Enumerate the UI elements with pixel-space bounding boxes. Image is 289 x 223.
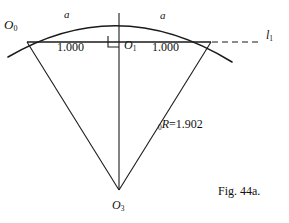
figure-caption: Fig. 44a. [218, 185, 260, 197]
radius-line-right [119, 42, 211, 190]
dimension-label-right: 1.000 [152, 41, 179, 53]
figure-container: O0 a a 1.000 1.000 O1 l1 0R=1.902 O3 Fig… [0, 0, 289, 223]
vertex-label-o3: O3 [112, 199, 124, 213]
dimension-label-left: 1.000 [57, 41, 84, 53]
arc-label-a-left: a [64, 9, 70, 20]
line-label-l1: l1 [266, 29, 273, 43]
vertex-label-o0: O0 [4, 18, 17, 33]
radius-line-left [27, 42, 119, 190]
radius-value-label: 0R=1.902 [158, 118, 203, 132]
vertex-label-o1: O1 [124, 39, 136, 53]
main-arc [8, 26, 232, 62]
arc-label-a-right: a [160, 10, 166, 21]
